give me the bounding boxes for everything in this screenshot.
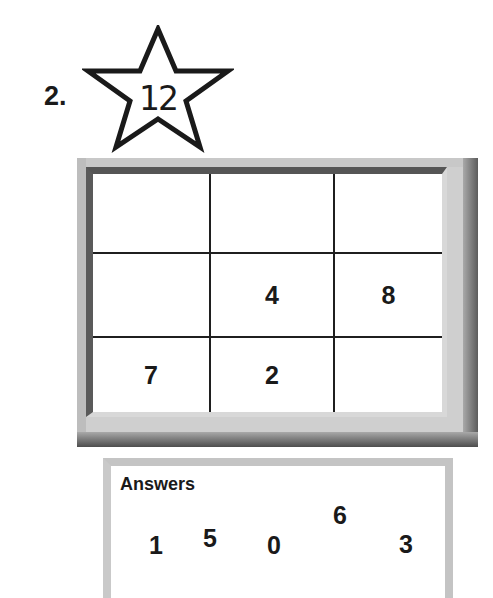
target-sum: 12 [82,82,234,115]
answer-option[interactable]: 6 [333,503,347,528]
puzzle-grid: 4 8 7 2 [93,174,442,412]
grid-cell-r3c3[interactable] [335,338,442,412]
grid-cell-r2c2: 4 [211,254,335,338]
star-icon: 12 [82,25,234,153]
grid-cell-r3c1: 7 [93,338,211,412]
grid-cell-r1c2[interactable] [211,174,335,254]
answer-option[interactable]: 1 [149,533,163,558]
frame-bevel-top [77,158,478,167]
problem-number: 2. [44,83,67,110]
frame-bevel-bottom [77,432,478,447]
grid-cell-r1c1[interactable] [93,174,211,254]
answer-option[interactable]: 5 [203,526,217,551]
grid-cell-r2c3: 8 [335,254,442,338]
answer-option[interactable]: 3 [399,532,413,557]
grid-cell-r3c2: 2 [211,338,335,412]
answer-option[interactable]: 0 [267,533,281,558]
puzzle-frame: 4 8 7 2 [77,158,478,447]
frame-bevel-right [463,158,478,447]
answers-title: Answers [120,475,195,493]
answers-box: Answers 1 5 0 6 3 [103,458,453,598]
frame-bevel-left [77,158,86,447]
puzzle-grid-area: 4 8 7 2 [86,167,447,417]
grid-cell-r2c1[interactable] [93,254,211,338]
grid-cell-r1c3[interactable] [335,174,442,254]
